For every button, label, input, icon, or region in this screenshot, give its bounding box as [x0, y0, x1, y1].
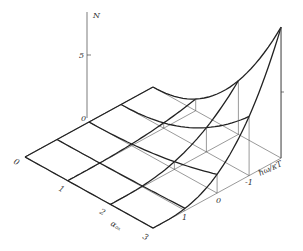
surface-diagram: N 5 0 0 1 2 3 αₒₓ 1 0 -1 ħω/κT	[0, 0, 303, 251]
v-tick-neg1: -1	[245, 178, 253, 187]
surface-curve-const-v	[153, 27, 281, 99]
u-tick-2: 2	[97, 206, 107, 217]
floor-line-v	[153, 87, 281, 158]
v-axis-label: ħω/κT	[257, 159, 284, 178]
tick-label-5: 5	[79, 51, 84, 60]
axis-label-n: N	[92, 11, 101, 20]
u-tick-1: 1	[57, 184, 66, 194]
v-tick-0: 0	[216, 196, 221, 205]
surface-mesh	[25, 27, 281, 228]
v-tick-1: 1	[182, 213, 187, 222]
floor-grid	[25, 87, 281, 228]
surface-curve-const-v	[25, 157, 153, 228]
u-tick-0: 0	[12, 157, 21, 167]
u-tick-3: 3	[141, 232, 150, 242]
u-axis-label: αₒₓ	[109, 219, 123, 233]
origin-label: 0	[81, 114, 86, 123]
